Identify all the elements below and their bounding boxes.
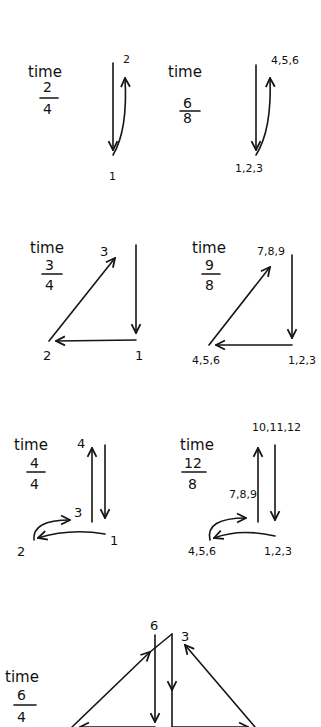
time-denominator: 8: [205, 277, 214, 293]
beat-label-1: 1: [135, 348, 143, 363]
time-numerator: 4: [30, 455, 39, 471]
panel-2-4-time: time 2 4 2 1: [28, 53, 130, 183]
time-label: time: [14, 436, 48, 454]
time-numerator: 2: [43, 79, 52, 95]
beat-label-1: 1,2,3: [288, 354, 316, 367]
time-denominator: 4: [30, 476, 39, 492]
panel-3-4-time: time 3 4 3 2 1: [30, 239, 143, 363]
beat-label-1: 1,2,3: [264, 545, 292, 558]
time-denominator: 4: [45, 277, 54, 293]
beat-label-3: 3: [181, 629, 189, 644]
beat-label-3: 3: [100, 244, 108, 259]
upbeat-arrow: [256, 78, 270, 155]
panel-6-4-time: time 6 4 6 3: [5, 618, 255, 727]
time-label: time: [5, 668, 39, 686]
beat-3-arrow: [209, 267, 270, 345]
beat-label-2: 2: [43, 348, 51, 363]
conducting-patterns-diagram: time 2 4 2 1 time 6 8 4,5,6 1,2,3 time 3…: [0, 0, 321, 727]
time-label: time: [192, 239, 226, 257]
panel-9-8-time: time 9 8 7,8,9 4,5,6 1,2,3: [192, 239, 316, 367]
time-numerator: 12: [184, 455, 202, 471]
beat-diagonal-up-right-arrow: [185, 645, 255, 727]
time-label: time: [30, 239, 64, 257]
beat-label-end: 4,5,6: [271, 54, 299, 67]
panel-4-4-time: time 4 4 4 3 2 1: [14, 436, 118, 559]
beat-label-start: 1: [109, 170, 116, 183]
beat-2-arrow: [38, 532, 105, 538]
beat-label-2: 4,5,6: [188, 545, 216, 558]
beat-label-2: 4,5,6: [192, 354, 220, 367]
diagonal-connector: [150, 634, 172, 652]
time-numerator: 6: [17, 687, 26, 703]
beat-label-6: 6: [150, 618, 158, 633]
panel-6-8-time: time 6 8 4,5,6 1,2,3: [168, 54, 299, 175]
beat-2-arrow: [56, 340, 136, 341]
beat-label-2: 2: [17, 544, 25, 559]
time-numerator: 9: [205, 257, 214, 273]
beat-label-4: 4: [77, 436, 85, 451]
beat-label-3: 7,8,9: [257, 245, 285, 258]
time-denominator: 8: [183, 110, 192, 126]
time-denominator: 4: [43, 101, 52, 117]
time-denominator: 8: [188, 476, 197, 492]
beat-diagonal-up-left-arrow: [72, 652, 150, 727]
beat-2-arrow: [214, 532, 275, 538]
beat-label-4: 10,11,12: [252, 421, 301, 434]
beat-3-arrow: [209, 518, 246, 540]
beat-label-3: 3: [74, 505, 82, 520]
time-label: time: [168, 63, 202, 81]
time-numerator: 6: [183, 95, 192, 111]
beat-label-end: 2: [123, 53, 130, 66]
upbeat-arrow: [113, 78, 126, 155]
time-denominator: 4: [17, 709, 26, 725]
beat-label-start: 1,2,3: [235, 162, 263, 175]
time-label: time: [180, 436, 214, 454]
beat-label-3: 7,8,9: [229, 488, 257, 501]
beat-3-arrow: [49, 258, 115, 341]
beat-label-1: 1: [110, 533, 118, 548]
panel-12-8-time: time 12 8 10,11,12 7,8,9 4,5,6 1,2,3: [180, 421, 301, 558]
time-numerator: 3: [45, 257, 54, 273]
